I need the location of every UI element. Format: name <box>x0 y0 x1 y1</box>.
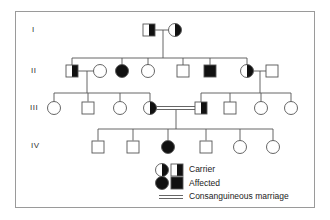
individual-II-6s-male-unaffected <box>266 65 278 77</box>
individual-IV-2-male-unaffected <box>127 141 139 153</box>
legend-affected-male-symbol-male-affected <box>171 177 183 189</box>
individual-II-3-female-unaffected <box>142 65 155 78</box>
individual-II-2-female-affected <box>116 65 129 78</box>
individual-III-3-female-unaffected <box>114 102 127 115</box>
individual-III-5-male-carrier <box>195 102 207 114</box>
legend-consanguineous-label: Consanguineous marriage <box>189 191 289 201</box>
individual-I-2-female-carrier <box>169 24 182 37</box>
legend-carrier-male-symbol-male-carrier <box>171 164 183 176</box>
individual-I-1-male-carrier <box>143 24 155 36</box>
individual-III-1-female-unaffected <box>48 102 61 115</box>
individual-II-1s-female-unaffected <box>94 65 107 78</box>
individual-III-7-female-unaffected <box>255 102 268 115</box>
individual-II-6-female-carrier <box>241 65 254 78</box>
individual-IV-6-female-unaffected <box>267 141 280 154</box>
legend-affected-label: Affected <box>189 178 220 188</box>
individual-II-4-male-unaffected <box>177 65 189 77</box>
individual-IV-4-male-unaffected <box>200 141 212 153</box>
legend-affected-female-symbol-female-affected <box>156 177 169 190</box>
legend-carrier-female-symbol-female-carrier <box>156 164 169 177</box>
individual-II-5-male-affected <box>204 65 216 77</box>
individual-IV-3-female-affected <box>162 141 175 154</box>
individual-IV-1-male-unaffected <box>92 141 104 153</box>
individual-III-4-female-carrier <box>144 102 157 115</box>
individual-IV-5-female-unaffected <box>234 141 247 154</box>
pedigree-diagram <box>0 0 330 220</box>
individual-II-1-male-carrier <box>66 65 78 77</box>
individual-III-6-male-unaffected <box>224 102 236 114</box>
individual-III-8-female-unaffected <box>285 102 298 115</box>
legend-carrier-label: Carrier <box>189 164 215 174</box>
individual-III-2-male-unaffected <box>82 102 94 114</box>
